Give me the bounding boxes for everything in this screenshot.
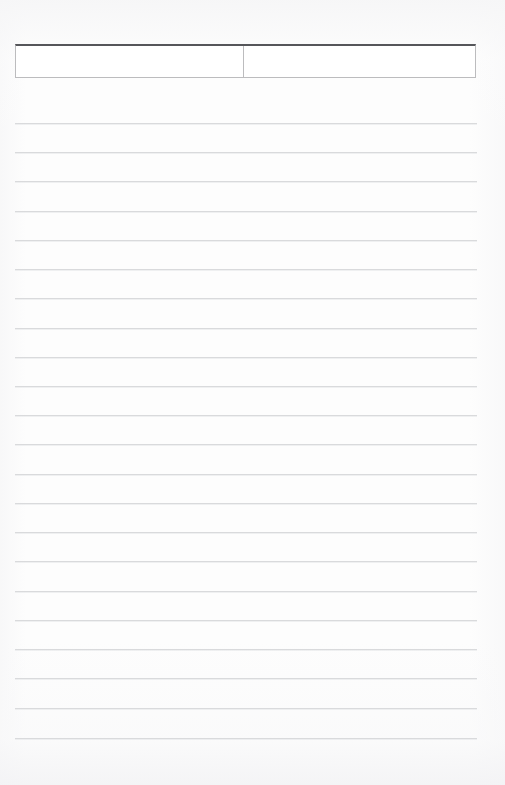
rule-line bbox=[15, 678, 477, 679]
rule-line bbox=[15, 386, 477, 387]
rule-line bbox=[15, 708, 477, 709]
ruled-lines-group bbox=[0, 0, 505, 785]
scanned-page bbox=[0, 0, 505, 785]
paper-tint-overlay bbox=[0, 0, 505, 785]
rule-line bbox=[15, 444, 477, 445]
header-field-right[interactable] bbox=[244, 46, 475, 77]
rule-line bbox=[15, 298, 477, 299]
rule-line bbox=[15, 240, 477, 241]
header-field-left[interactable] bbox=[16, 46, 244, 77]
rule-line bbox=[15, 211, 477, 212]
rule-line bbox=[15, 181, 477, 182]
rule-line bbox=[15, 532, 477, 533]
rule-line bbox=[15, 649, 477, 650]
rule-line bbox=[15, 503, 477, 504]
rule-line bbox=[15, 328, 477, 329]
rule-line bbox=[15, 357, 477, 358]
rule-line bbox=[15, 620, 477, 621]
rule-line bbox=[15, 152, 477, 153]
rule-line bbox=[15, 474, 477, 475]
rule-line bbox=[15, 123, 477, 124]
rule-line bbox=[15, 591, 477, 592]
rule-line bbox=[15, 561, 477, 562]
rule-line bbox=[15, 415, 477, 416]
rule-line bbox=[15, 269, 477, 270]
header-table bbox=[15, 44, 476, 78]
rule-line bbox=[15, 738, 477, 739]
